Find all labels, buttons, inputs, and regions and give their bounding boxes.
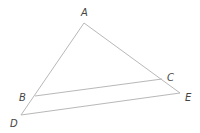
segment-de [21, 93, 180, 115]
segment-bc [35, 79, 162, 96]
segment-ae [84, 23, 180, 93]
label-b: B [19, 92, 26, 103]
label-a: A [80, 7, 88, 18]
segment-ad [21, 23, 84, 115]
label-c: C [167, 72, 174, 83]
triangle-diagram: A B C D E [0, 0, 200, 133]
label-d: D [10, 118, 18, 129]
label-e: E [185, 92, 192, 103]
